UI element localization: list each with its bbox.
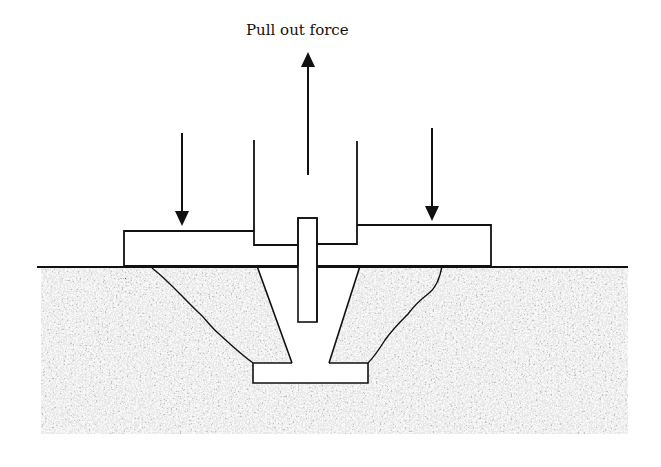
pull-arrow-up-icon — [301, 52, 315, 175]
anchor-head — [253, 363, 368, 383]
reaction-plate-left — [124, 231, 254, 266]
pull-out-test-diagram — [0, 0, 661, 467]
loading-frame-left-leg — [254, 140, 298, 245]
reaction-arrow-right-down-icon — [425, 128, 439, 221]
loading-frame-right-leg — [313, 141, 357, 244]
reaction-arrow-left-down-icon — [175, 133, 189, 226]
concrete-block — [41, 268, 628, 434]
reaction-plate-right — [357, 225, 491, 266]
